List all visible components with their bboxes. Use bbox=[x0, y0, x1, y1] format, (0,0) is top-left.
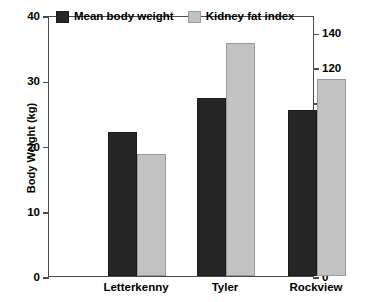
y-axis-tick-left bbox=[43, 16, 49, 18]
y-axis-tick-left bbox=[43, 212, 49, 214]
y-axis-tick-label-left: 40 bbox=[27, 11, 40, 23]
y-axis-tick-label-left: 20 bbox=[27, 142, 40, 154]
y-axis-tick-right bbox=[313, 68, 319, 70]
bar-letterkenny-kidney-fat-index bbox=[137, 154, 166, 276]
chart-legend: Mean body weightKidney fat index bbox=[56, 11, 295, 23]
y-axis-tick-left bbox=[43, 82, 49, 84]
legend-entry-mean-body-weight: Mean body weight bbox=[56, 11, 174, 23]
y-axis-tick-left bbox=[43, 147, 49, 149]
y-axis-tick-left bbox=[43, 277, 49, 279]
legend-swatch-icon bbox=[188, 11, 201, 23]
bar-tyler-body-weight bbox=[197, 98, 226, 276]
y-axis-tick-label-left: 30 bbox=[27, 77, 40, 89]
bar-rockview-body-weight bbox=[288, 110, 317, 276]
legend-label: Kidney fat index bbox=[206, 11, 295, 23]
y-axis-tick-right bbox=[313, 277, 319, 279]
y-axis-tick-right bbox=[313, 34, 319, 36]
y-axis-tick-label-right: 140 bbox=[322, 29, 341, 41]
bar-letterkenny-body-weight bbox=[108, 132, 137, 276]
x-axis-category-label: Rockview bbox=[256, 281, 366, 293]
bar-rockview-kidney-fat-index bbox=[317, 79, 346, 276]
y-axis-tick-label-right: 120 bbox=[322, 63, 341, 75]
y-axis-tick-label-left: 0 bbox=[34, 272, 40, 284]
legend-entry-kidney-fat-index: Kidney fat index bbox=[188, 11, 295, 23]
legend-swatch-icon bbox=[56, 11, 69, 23]
legend-label: Mean body weight bbox=[74, 11, 174, 23]
bar-tyler-kidney-fat-index bbox=[226, 43, 255, 276]
chart-figure: Body Weight (kg) Kidney Fat Index 010203… bbox=[0, 0, 366, 302]
plot-area: 010203040020406080100120140 bbox=[48, 16, 314, 277]
y-axis-tick-label-left: 10 bbox=[27, 207, 40, 219]
